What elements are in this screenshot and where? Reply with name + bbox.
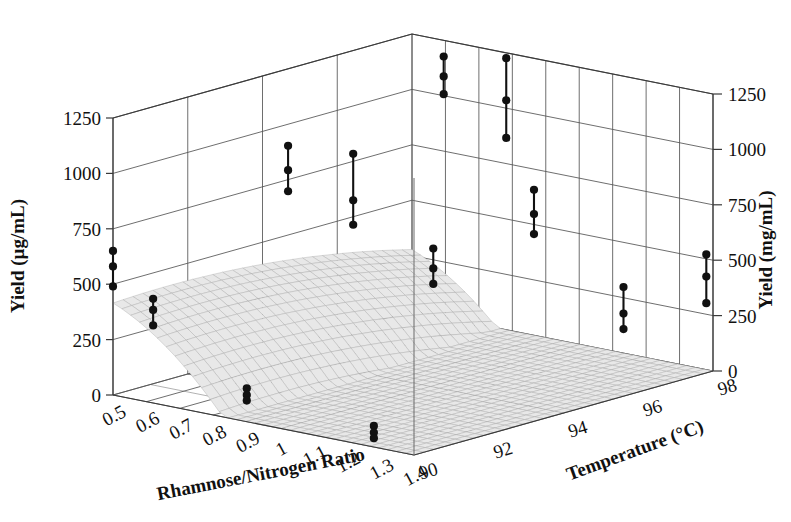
z-left-tick: 1250 — [63, 108, 101, 129]
z-left-axis-label: Yield (µg/mL) — [7, 199, 29, 313]
y-tick: 96 — [640, 395, 664, 421]
y-tick: 92 — [491, 437, 515, 463]
z-left-tick: 1000 — [63, 163, 101, 184]
x-tick: 0.7 — [165, 414, 196, 444]
x-tick: 0.5 — [99, 400, 130, 430]
z-right-tick: 750 — [728, 195, 757, 216]
z-left-tick: 750 — [73, 219, 102, 240]
z-right-tick: 1000 — [728, 139, 766, 160]
figure-root: 0250500750100012500250500750100012500.50… — [0, 0, 791, 522]
x-tick: 1 — [272, 437, 290, 460]
z-left-tick: 250 — [73, 330, 102, 351]
x-tick: 1.3 — [366, 454, 397, 484]
response-surface — [113, 250, 713, 456]
x-tick: 0.8 — [199, 420, 230, 450]
x-axis-label: Rhamnose/Nitrogen Ratio — [155, 443, 366, 504]
z-right-tick: 500 — [728, 250, 757, 271]
y-tick: 94 — [565, 416, 590, 442]
x-tick: 0.9 — [232, 427, 263, 457]
z-left-tick: 0 — [92, 385, 102, 406]
x-tick: 0.6 — [132, 407, 163, 437]
z-right-tick: 250 — [728, 306, 757, 327]
z-right-tick: 1250 — [728, 84, 766, 105]
z-right-axis-label: Yield (mg/mL) — [755, 190, 777, 309]
z-left-tick: 500 — [73, 274, 102, 295]
surface-plot-svg: 0250500750100012500250500750100012500.50… — [0, 0, 791, 522]
